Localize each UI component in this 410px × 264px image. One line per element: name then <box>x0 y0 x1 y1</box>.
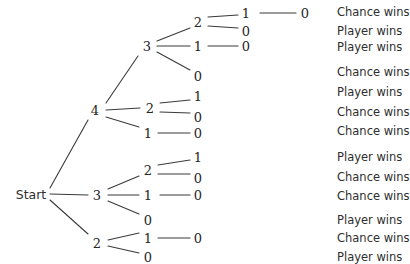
tree-node-n_43_1: 1 <box>194 40 202 53</box>
tree-edge <box>50 194 88 195</box>
tree-node-n_3_2: 2 <box>144 164 152 177</box>
tree-node-n_42_1: 1 <box>194 90 202 103</box>
tree-edge <box>108 246 139 253</box>
tree-node-n_432_0: 0 <box>242 25 250 38</box>
tree-edge <box>157 28 190 41</box>
outcome-label: Chance wins <box>337 66 410 78</box>
outcome-label: Chance wins <box>337 125 410 137</box>
outcome-label: Player wins <box>337 86 402 98</box>
tree-node-n_4321_0: 0 <box>301 7 309 20</box>
tree-node-n_32_1: 1 <box>194 151 202 164</box>
tree-node-n_2_bot: 2 <box>93 237 101 250</box>
tree-edge <box>208 15 238 17</box>
tree-node-n_432_1: 1 <box>242 7 250 20</box>
outcome-label: Chance wins <box>337 232 410 244</box>
tree-node-n_41_0: 0 <box>194 127 202 140</box>
outcome-label: Chance wins <box>337 171 410 183</box>
tree-node-n_43_2: 2 <box>194 16 202 29</box>
tree-edge <box>108 201 139 214</box>
tree-edge <box>106 117 139 127</box>
outcome-label: Chance wins <box>337 6 410 18</box>
tree-node-n_4_1: 1 <box>144 127 152 140</box>
tree-node-n_2_0: 0 <box>144 251 152 264</box>
tree-edge <box>50 120 88 188</box>
outcome-label: Chance wins <box>337 190 410 202</box>
tree-edge <box>160 112 190 113</box>
tree-node-n_42_0: 0 <box>194 111 202 124</box>
tree-node-n_2_1: 1 <box>144 232 152 245</box>
outcome-label: Player wins <box>337 251 402 263</box>
outcome-label: Chance wins <box>337 106 410 118</box>
tree-node-n_3_0: 0 <box>144 214 152 227</box>
tree-node-start: Start <box>16 188 47 201</box>
tree-node-n_43_0: 0 <box>194 70 202 83</box>
tree-node-n_4_3: 3 <box>143 40 151 53</box>
tree-node-n_431_0: 0 <box>242 40 250 53</box>
outcome-label: Player wins <box>337 151 402 163</box>
tree-edge <box>108 233 139 240</box>
tree-node-n_31_0: 0 <box>194 189 202 202</box>
tree-node-n_3_1: 1 <box>144 189 152 202</box>
tree-edge <box>108 176 139 189</box>
tree-edge <box>208 26 238 28</box>
tree-node-n_21_0: 0 <box>194 232 202 245</box>
tree-node-n_3_mid: 3 <box>93 189 101 202</box>
outcome-label: Player wins <box>337 214 402 226</box>
tree-edge <box>157 52 190 70</box>
outcome-label: Player wins <box>337 25 402 37</box>
tree-edge <box>50 200 88 234</box>
tree-edge <box>160 100 190 103</box>
tree-edge <box>106 108 140 110</box>
tree-node-n_4_2: 2 <box>146 102 154 115</box>
outcome-label: Player wins <box>337 41 402 53</box>
tree-node-n_4: 4 <box>91 104 99 117</box>
tree-edge <box>158 160 190 165</box>
tree-node-n_32_0: 0 <box>194 172 202 185</box>
tree-edge <box>106 56 138 103</box>
